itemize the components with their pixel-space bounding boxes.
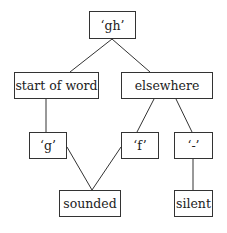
node-g-label: ‘g’ bbox=[40, 138, 56, 153]
edge-else-dash bbox=[176, 99, 192, 132]
edge-else-f bbox=[137, 99, 154, 132]
node-elsewhere: elsewhere bbox=[121, 72, 213, 99]
node-start-of-word-label: start of word bbox=[15, 78, 97, 93]
node-silent-label: silent bbox=[176, 196, 211, 211]
node-f: ‘f’ bbox=[121, 132, 159, 159]
edge-g-sounded bbox=[67, 147, 92, 190]
node-elsewhere-label: elsewhere bbox=[135, 78, 200, 93]
node-silent: silent bbox=[174, 190, 213, 217]
node-sounded-label: sounded bbox=[63, 196, 116, 211]
gh-pronunciation-tree: ‘gh’ start of word elsewhere ‘g’ ‘f’ ‘-’… bbox=[0, 0, 227, 233]
node-sounded: sounded bbox=[59, 190, 121, 217]
node-start-of-word: start of word bbox=[14, 72, 99, 99]
node-f-label: ‘f’ bbox=[133, 138, 147, 153]
node-gh-label: ‘gh’ bbox=[101, 18, 125, 33]
edge-root-start bbox=[70, 39, 112, 72]
node-dash: ‘-’ bbox=[174, 132, 213, 159]
node-gh: ‘gh’ bbox=[89, 11, 136, 39]
edge-f-sounded bbox=[92, 147, 121, 190]
node-dash-label: ‘-’ bbox=[187, 138, 199, 153]
node-g: ‘g’ bbox=[29, 132, 67, 159]
edge-root-else bbox=[112, 39, 150, 72]
